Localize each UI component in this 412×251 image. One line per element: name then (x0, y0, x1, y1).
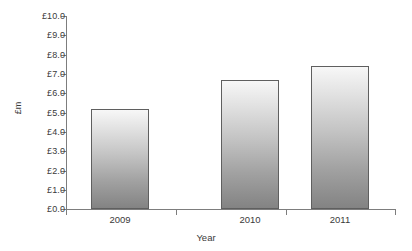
x-axis-category-label-2011: 2011 (295, 214, 385, 225)
bar-2011 (311, 66, 369, 209)
y-axis-tick-label: £9.0 (5, 31, 65, 40)
x-axis-category-label-2010: 2010 (205, 214, 295, 225)
x-axis-tick (176, 210, 177, 215)
y-axis-tick-label: £10.0 (5, 12, 65, 21)
y-axis-line (66, 16, 67, 210)
bar-2009 (91, 109, 149, 209)
y-axis-tick-label: £2.0 (5, 167, 65, 176)
x-axis-line (66, 209, 396, 210)
x-axis-tick (66, 210, 67, 215)
bar-chart: £10.0 £9.0 £8.0 £7.0 £6.0 £5.0 £4.0 £3.0… (0, 0, 412, 251)
x-axis-tick (395, 210, 396, 215)
y-axis-tick-label: £7.0 (5, 70, 65, 79)
y-axis-tick-label: £8.0 (5, 51, 65, 60)
x-axis-title: Year (0, 232, 412, 243)
y-axis-tick-label: £1.0 (5, 186, 65, 195)
x-axis-category-label-2009: 2009 (75, 214, 165, 225)
y-axis-tick-label: £3.0 (5, 147, 65, 156)
y-axis-title: £m (13, 88, 23, 128)
y-axis-tick-label: £4.0 (5, 128, 65, 137)
y-axis-tick-label: £0.0 (5, 205, 65, 214)
bar-2010 (221, 80, 279, 209)
